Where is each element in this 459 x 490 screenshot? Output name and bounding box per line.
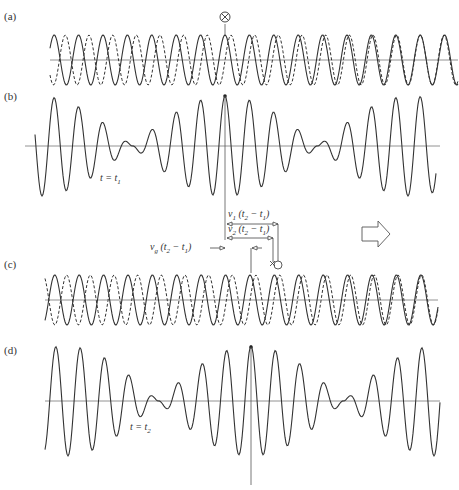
panel-label-b: (b) [4, 90, 17, 102]
panel-d [45, 345, 440, 485]
wave-packet-figure [0, 0, 459, 490]
panel-label-c: (c) [4, 258, 16, 270]
crossed-circle-marker [220, 12, 230, 22]
panel-a [50, 12, 458, 85]
panel-label-a: (a) [4, 10, 16, 22]
label-v2-distance: v2 (t2 − t1) [228, 223, 269, 237]
time-label-t2: t = t2 [130, 421, 151, 435]
propagation-direction-arrow [362, 221, 390, 247]
panel-label-d: (d) [4, 344, 17, 356]
time-label-t1: t = t1 [100, 172, 121, 186]
label-v1-distance: v1 (t2 − t1) [228, 208, 269, 222]
label-vg-distance: vg (t2 − t1) [150, 241, 191, 255]
panel-c [45, 275, 438, 325]
